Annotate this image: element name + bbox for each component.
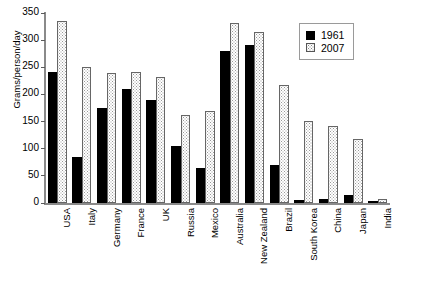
- bar-1961-italy: [72, 157, 82, 203]
- x-axis-line: [44, 203, 390, 205]
- bar-2007-germany: [107, 73, 117, 203]
- bar-2007-australia: [230, 23, 240, 203]
- bar-2007-china: [328, 126, 338, 203]
- bar-group: [144, 13, 169, 203]
- bar-2007-france: [131, 72, 141, 203]
- bar-2007-japan: [353, 139, 363, 203]
- bar-1961-japan: [344, 195, 354, 203]
- bar-2007-usa: [57, 21, 67, 203]
- x-tick-label: Mexico: [209, 208, 220, 238]
- chart-legend: 1961 2007: [299, 23, 354, 60]
- bar-1961-china: [319, 199, 329, 203]
- bar-2007-uk: [156, 77, 166, 203]
- legend-swatch-1961: [306, 31, 315, 40]
- x-tick-label: China: [332, 208, 343, 233]
- x-tick-label: Russia: [185, 208, 196, 237]
- x-tick-label: Australia: [234, 208, 245, 245]
- bar-2007-mexico: [205, 111, 215, 203]
- bar-2007-new-zealand: [254, 32, 264, 203]
- bar-group: [45, 13, 70, 203]
- bar-1961-brazil: [270, 165, 280, 203]
- x-tick-label: Germany: [111, 208, 122, 247]
- y-tick-label: 350: [0, 7, 39, 17]
- bar-2007-south-korea: [304, 121, 314, 203]
- x-tick-label: New Zealand: [258, 208, 269, 264]
- legend-item-1961: 1961: [306, 30, 344, 41]
- bar-1961-new-zealand: [245, 45, 255, 204]
- bar-1961-mexico: [196, 168, 206, 203]
- y-tick-label: 100: [0, 143, 39, 153]
- bar-1961-germany: [97, 108, 107, 203]
- y-tick-label: 300: [0, 34, 39, 44]
- y-tick-label: 250: [0, 61, 39, 71]
- legend-label-2007: 2007: [321, 43, 344, 54]
- bar-group: [94, 13, 119, 203]
- bar-1961-india: [368, 201, 378, 203]
- bar-1961-uk: [146, 100, 156, 203]
- y-tick-label: 0: [0, 197, 39, 207]
- bar-group: [218, 13, 243, 203]
- x-tick-label: South Korea: [308, 208, 319, 261]
- bar-group: [70, 13, 95, 203]
- x-tick-label: USA: [61, 208, 72, 228]
- bar-chart: Grams/person/day 050100150200250300350 U…: [0, 0, 421, 286]
- bar-group: [168, 13, 193, 203]
- bar-group: [193, 13, 218, 203]
- bar-group: [267, 13, 292, 203]
- bar-1961-south-korea: [294, 200, 304, 203]
- bar-2007-brazil: [279, 85, 289, 203]
- x-tick-label: Italy: [86, 208, 97, 225]
- y-tick-label: 150: [0, 116, 39, 126]
- x-tick-label: India: [382, 208, 393, 229]
- x-tick-label: UK: [160, 208, 171, 221]
- x-tick-label: Japan: [357, 208, 368, 234]
- x-tick-label: France: [135, 208, 146, 238]
- legend-item-2007: 2007: [306, 43, 344, 54]
- bar-group: [242, 13, 267, 203]
- bar-group: [119, 13, 144, 203]
- bar-1961-usa: [48, 72, 58, 203]
- x-tick-label: Brazil: [283, 208, 294, 232]
- bar-2007-india: [378, 199, 388, 203]
- bar-group: [365, 13, 390, 203]
- legend-swatch-2007: [306, 43, 315, 52]
- bar-2007-italy: [82, 67, 92, 203]
- bar-1961-france: [122, 89, 132, 203]
- bar-2007-russia: [181, 115, 191, 203]
- bar-1961-russia: [171, 146, 181, 203]
- y-tick-label: 50: [0, 170, 39, 180]
- y-tick-label: 200: [0, 88, 39, 98]
- bar-1961-australia: [220, 51, 230, 203]
- legend-label-1961: 1961: [321, 30, 344, 41]
